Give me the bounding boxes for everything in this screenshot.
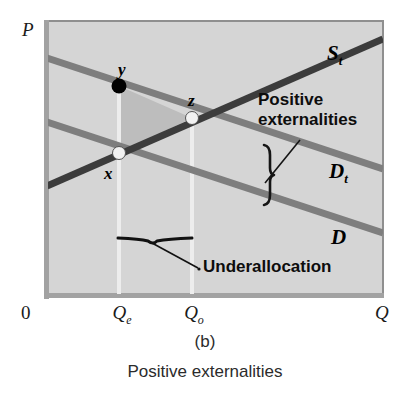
annotation-positive-externalities: Positive externalities — [258, 90, 386, 129]
x-tick-qo: Qo — [184, 303, 204, 326]
x-tick-qe: Qe — [112, 303, 131, 326]
figure-positive-externalities: P Q 0 Qe Qo St Dt D y x z Positive exter… — [0, 0, 409, 404]
annotation-positive-externalities-line1: Positive — [258, 90, 386, 110]
curve-label-st-base: S — [327, 41, 339, 65]
plot-frame-top — [48, 20, 384, 22]
x-tick-qe-base: Q — [112, 302, 126, 323]
figure-caption: Positive externalities — [128, 363, 283, 380]
x-tick-qe-sub: e — [126, 313, 131, 327]
x-tick-qo-sub: o — [198, 313, 204, 327]
x-axis — [44, 293, 384, 298]
curve-label-d-base: D — [331, 225, 346, 249]
x-axis-label: Q — [375, 303, 389, 322]
plot-frame-right — [382, 20, 384, 298]
point-label-y: y — [118, 61, 126, 78]
annotation-underallocation: Underallocation — [203, 257, 331, 277]
point-label-z: z — [188, 92, 195, 109]
underallocation-leader-dot — [197, 267, 200, 270]
point-marker-z — [186, 112, 199, 125]
curve-label-st: St — [327, 43, 342, 67]
curve-label-dt-base: D — [329, 159, 344, 183]
annotation-positive-externalities-line2: externalities — [258, 110, 386, 130]
point-marker-x — [113, 147, 126, 160]
point-label-x: x — [104, 165, 113, 182]
curve-label-dt: Dt — [329, 161, 348, 185]
panel-id: (b) — [195, 333, 216, 350]
y-axis-label: P — [22, 20, 34, 39]
curve-label-d: D — [331, 227, 346, 251]
curve-label-st-sub: t — [339, 53, 343, 68]
curve-label-dt-sub: t — [344, 171, 348, 186]
x-tick-qo-base: Q — [184, 302, 198, 323]
origin-label: 0 — [21, 303, 31, 322]
point-marker-y — [112, 79, 127, 94]
